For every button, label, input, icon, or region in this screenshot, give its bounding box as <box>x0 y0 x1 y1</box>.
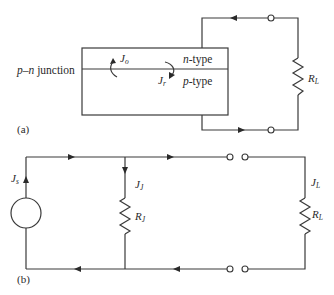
current-source <box>11 198 41 228</box>
arrowhead-icon <box>110 58 116 64</box>
junction-resistor-label: RJ <box>134 210 146 224</box>
bottom-lead-wire <box>202 115 268 130</box>
part-b: Js JJ RJ JL RL <box>11 154 323 286</box>
terminal-bottom <box>268 127 274 133</box>
arrowhead-icon <box>169 72 175 79</box>
arrow-down-icon <box>122 167 128 174</box>
terminal-top-right <box>242 154 248 160</box>
load-current-label: JL <box>311 176 320 190</box>
load-resistor-b <box>300 198 310 234</box>
arrow-left-icon <box>230 15 237 21</box>
arrow-up-icon <box>23 176 29 183</box>
arrow-right-icon <box>167 154 174 160</box>
load-top-wire <box>248 157 305 198</box>
load-resistor-a-label: RL <box>307 72 319 86</box>
pn-junction-label: p–n junction <box>16 64 75 77</box>
bottom-right-wire <box>274 95 298 130</box>
panel-label-b: (b) <box>17 273 30 286</box>
arrow-right-icon <box>238 127 245 133</box>
arrow-left-icon <box>74 266 81 272</box>
arrow-right-icon <box>68 154 75 160</box>
n-type-label: n-type <box>183 53 212 66</box>
p-type-label: p-type <box>182 75 212 88</box>
junction-current-label: JJ <box>135 178 144 192</box>
terminal-bottom-left <box>227 266 233 272</box>
load-resistor-a <box>293 58 303 95</box>
source-current-label: Js <box>11 172 19 186</box>
current-r-label: Jr <box>158 74 166 88</box>
top-right-wire <box>274 18 298 58</box>
terminal-top <box>268 15 274 21</box>
load-resistor-b-label: RL <box>311 208 323 222</box>
pn-junction-circuit-diagram: p–n junction n-type p-type Jo Jr <box>0 0 334 295</box>
panel-label-a: (a) <box>17 123 30 136</box>
terminal-bottom-right <box>242 266 248 272</box>
load-bottom-wire <box>248 234 305 269</box>
top-lead-wire <box>202 18 268 48</box>
terminal-top-left <box>227 154 233 160</box>
junction-resistor <box>120 198 130 234</box>
arrow-left-icon <box>173 266 180 272</box>
current-o-label: Jo <box>120 52 129 66</box>
part-a: p–n junction n-type p-type Jo Jr <box>16 15 319 136</box>
